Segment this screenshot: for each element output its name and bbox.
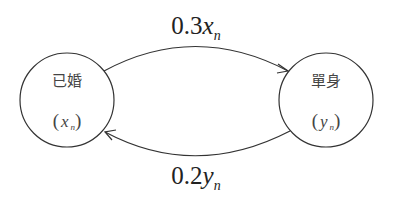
- close-paren: ): [334, 110, 340, 131]
- edge-sub: n: [214, 178, 221, 193]
- node-single-circle: [279, 53, 373, 147]
- edge-sub: n: [214, 28, 221, 43]
- close-paren: ): [75, 110, 81, 131]
- edge-married-to-single-arrow: [104, 47, 288, 72]
- node-var: y: [318, 112, 330, 131]
- edge-single-to-married-arrow: [105, 131, 290, 156]
- node-var: x: [59, 112, 71, 131]
- node-single-var: (yn): [312, 111, 341, 130]
- edge-var: y: [203, 162, 214, 189]
- node-married-circle: [20, 53, 114, 147]
- edge-var: x: [203, 12, 214, 39]
- edge-label-married-to-single: 0.3xn: [171, 13, 220, 38]
- edge-label-single-to-married: 0.2yn: [171, 163, 220, 188]
- node-married-name: 已婚: [52, 74, 82, 89]
- node-married-var: (xn): [53, 111, 82, 130]
- edge-coef: 0.3: [171, 12, 202, 39]
- edge-coef: 0.2: [171, 162, 202, 189]
- node-single-name: 單身: [311, 74, 341, 89]
- state-diagram: 0.3xn 0.2yn 已婚 (xn) 單身 (yn): [0, 0, 393, 200]
